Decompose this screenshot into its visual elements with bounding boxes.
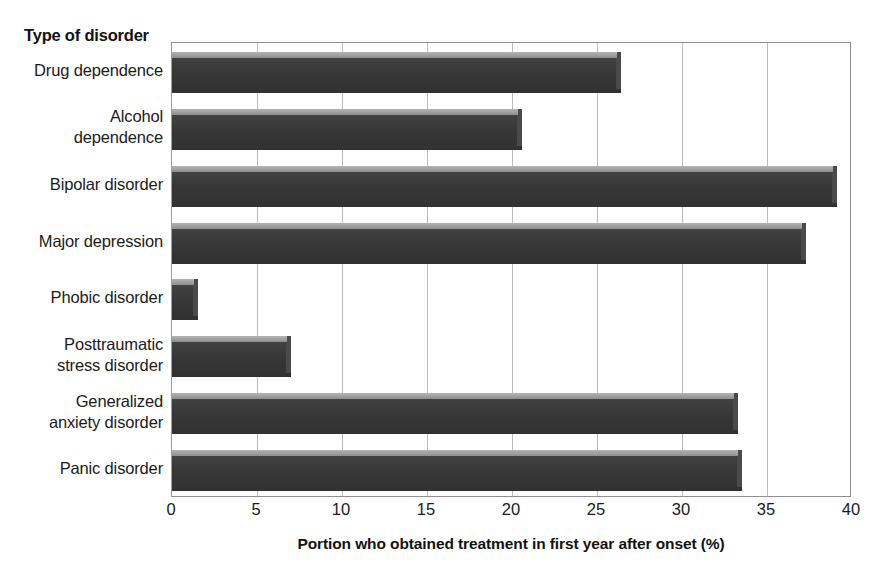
category-label: Alcohol dependence <box>0 106 163 148</box>
plot-area <box>171 42 851 497</box>
x-tick-label: 5 <box>251 500 260 519</box>
x-tick-label: 15 <box>417 500 435 519</box>
bar-body <box>172 398 738 434</box>
x-tick-label: 0 <box>166 500 175 519</box>
category-label: Panic disorder <box>0 458 163 479</box>
bar-top-bevel <box>172 109 518 115</box>
x-tick-label: 30 <box>672 500 690 519</box>
category-label: Phobic disorder <box>0 287 163 308</box>
bar-body <box>172 114 522 150</box>
bar <box>172 393 738 434</box>
bar <box>172 223 806 264</box>
bar-body <box>172 341 291 377</box>
x-axis-tick-group: 0510152025303540 <box>171 500 851 530</box>
x-tick-label: 25 <box>587 500 605 519</box>
bar-top-bevel <box>172 279 194 285</box>
bar <box>172 109 522 150</box>
x-tick-label: 35 <box>757 500 775 519</box>
bar-top-bevel <box>172 223 802 229</box>
bar <box>172 279 198 320</box>
category-label: Posttraumatic stress disorder <box>0 334 163 376</box>
gridline <box>767 43 768 496</box>
bar-body <box>172 171 837 207</box>
category-label: Drug dependence <box>0 60 163 81</box>
bar-body <box>172 57 621 93</box>
bar <box>172 450 742 491</box>
category-label: Generalized anxiety disorder <box>0 391 163 433</box>
category-label: Bipolar disorder <box>0 174 163 195</box>
category-label: Major depression <box>0 231 163 252</box>
x-tick-label: 20 <box>502 500 520 519</box>
bar-body <box>172 455 742 491</box>
bar-top-bevel <box>172 166 833 172</box>
bar <box>172 52 621 93</box>
category-label-group: Drug dependenceAlcohol dependenceBipolar… <box>0 42 163 497</box>
bar-top-bevel <box>172 336 287 342</box>
bar <box>172 166 837 207</box>
bar-top-bevel <box>172 450 738 456</box>
x-tick-label: 10 <box>332 500 350 519</box>
bar-chart: Type of disorder Drug dependenceAlcohol … <box>0 0 876 563</box>
bar-body <box>172 228 806 264</box>
bar <box>172 336 291 377</box>
bar-top-bevel <box>172 52 617 58</box>
x-tick-label: 40 <box>842 500 860 519</box>
x-axis-title: Portion who obtained treatment in first … <box>171 535 851 553</box>
bar-top-bevel <box>172 393 734 399</box>
